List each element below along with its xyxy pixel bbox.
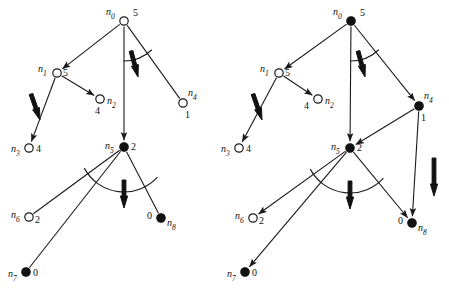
node-n7[interactable] bbox=[241, 268, 249, 276]
node-label-n5: n5 bbox=[105, 140, 114, 155]
node-n1[interactable] bbox=[53, 69, 61, 77]
node-value-n0: 5 bbox=[133, 7, 138, 18]
node-n2[interactable] bbox=[314, 95, 322, 103]
node-value-n7: 0 bbox=[252, 267, 257, 278]
arcs-layer bbox=[84, 50, 383, 193]
bold-arrow-n0-n5 bbox=[356, 51, 365, 77]
node-n4[interactable] bbox=[415, 102, 423, 110]
node-label-n4: n4 bbox=[424, 90, 433, 105]
bold-arrow-n1-n3 bbox=[29, 93, 40, 120]
node-value-n4: 1 bbox=[421, 112, 426, 123]
node-n4[interactable] bbox=[179, 99, 187, 107]
edge-n5-n8 bbox=[353, 152, 407, 218]
node-value-n8: 0 bbox=[147, 210, 152, 221]
bold-arrow-n5-down bbox=[346, 181, 353, 209]
node-label-n0: n0 bbox=[106, 6, 115, 21]
node-label-n7: n7 bbox=[8, 268, 17, 283]
bold-arrow-n4-n8 bbox=[430, 158, 437, 196]
node-label-n3: n3 bbox=[11, 143, 20, 158]
edge-n4-n5 bbox=[356, 109, 415, 145]
arc-n5 bbox=[310, 169, 383, 193]
node-n7[interactable] bbox=[22, 268, 30, 276]
node-n6[interactable] bbox=[249, 214, 257, 222]
node-label-n5: n5 bbox=[331, 141, 340, 156]
bold-arrow-n5-down bbox=[120, 180, 127, 208]
edge-n1-n2 bbox=[283, 76, 312, 95]
node-value-n2: 4 bbox=[95, 105, 100, 116]
diagram-canvas: n05n15n24n34n41n52n62n70n80n05n15n24n34n… bbox=[0, 0, 449, 302]
node-n3[interactable] bbox=[235, 144, 243, 152]
node-n6[interactable] bbox=[25, 213, 33, 221]
node-value-n6: 2 bbox=[259, 215, 264, 226]
node-label-n1: n1 bbox=[260, 63, 269, 78]
node-value-n5: 2 bbox=[131, 141, 136, 152]
node-n8[interactable] bbox=[408, 219, 416, 227]
edge-n5-n6 bbox=[33, 150, 119, 214]
node-label-n6: n6 bbox=[11, 209, 20, 224]
node-n0[interactable] bbox=[120, 17, 128, 25]
node-label-n0: n0 bbox=[333, 6, 342, 21]
node-value-n4: 1 bbox=[185, 109, 190, 120]
bold-arrow-n0-n5 bbox=[129, 51, 138, 77]
edge-n0-n5 bbox=[350, 26, 351, 141]
node-label-n2: n2 bbox=[107, 95, 116, 110]
node-label-n7: n7 bbox=[227, 268, 236, 283]
node-value-n1: 5 bbox=[63, 67, 68, 78]
node-value-n5: 2 bbox=[357, 142, 362, 153]
node-label-n3: n3 bbox=[221, 143, 230, 158]
node-label-n8: n8 bbox=[167, 217, 176, 232]
arc-n5 bbox=[84, 168, 157, 192]
node-n5[interactable] bbox=[120, 143, 128, 151]
node-label-n2: n2 bbox=[325, 95, 334, 110]
edge-n5-n8 bbox=[127, 152, 159, 213]
node-n0[interactable] bbox=[347, 17, 355, 25]
node-label-n1: n1 bbox=[38, 63, 47, 78]
edge-n5-n7 bbox=[29, 151, 120, 268]
edge-n1-n2 bbox=[62, 76, 95, 96]
arc-n0 bbox=[123, 50, 151, 61]
node-value-n3: 4 bbox=[246, 143, 251, 154]
node-value-n1: 5 bbox=[285, 67, 290, 78]
node-label-n6: n6 bbox=[235, 210, 244, 225]
node-n2[interactable] bbox=[96, 95, 104, 103]
figure-root: n05n15n24n34n41n52n62n70n80n05n15n24n34n… bbox=[0, 0, 449, 302]
edge-n0-n1 bbox=[62, 24, 119, 69]
node-value-n6: 2 bbox=[35, 214, 40, 225]
node-value-n8: 0 bbox=[398, 215, 403, 226]
node-label-n8: n8 bbox=[418, 222, 427, 237]
node-n5[interactable] bbox=[346, 144, 354, 152]
node-value-n0: 5 bbox=[360, 7, 365, 18]
node-n1[interactable] bbox=[275, 69, 283, 77]
node-n8[interactable] bbox=[157, 214, 165, 222]
node-value-n2: 4 bbox=[304, 100, 309, 111]
labels-layer: n05n15n24n34n41n52n62n70n80n05n15n24n34n… bbox=[8, 6, 433, 283]
bold-arrows-layer bbox=[29, 51, 437, 209]
node-value-n7: 0 bbox=[33, 267, 38, 278]
arc-n0 bbox=[350, 50, 378, 61]
node-label-n4: n4 bbox=[188, 87, 197, 102]
node-n3[interactable] bbox=[25, 144, 33, 152]
node-value-n3: 4 bbox=[36, 143, 41, 154]
edge-n0-n1 bbox=[285, 24, 347, 69]
edge-n4-n8 bbox=[412, 111, 418, 216]
